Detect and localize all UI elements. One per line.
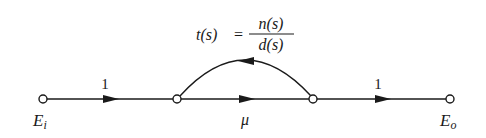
formula-lhs: t(s) <box>196 26 217 44</box>
output-label: Eo <box>439 111 456 132</box>
arrow-right-icon <box>239 95 255 103</box>
arrow-right-icon <box>103 95 119 103</box>
edge-gain-label: 1 <box>101 76 109 92</box>
feedback-formula: t(s) = n(s) d(s) <box>196 15 294 54</box>
feedback-arc <box>180 60 311 96</box>
node-3 <box>309 95 317 103</box>
arrow-right-icon <box>375 95 391 103</box>
edge-gain-label-mu: μ <box>240 111 249 129</box>
arrow-left-icon <box>238 57 254 65</box>
formula-numerator: n(s) <box>259 15 284 33</box>
formula-denominator: d(s) <box>259 36 284 54</box>
node-2 <box>173 95 181 103</box>
input-label: Ei <box>32 111 47 132</box>
node-input <box>39 95 47 103</box>
formula-equals: = <box>234 26 243 43</box>
signal-flow-graph: 1 μ 1 Ei Eo t(s) = n(s) d(s) <box>0 0 486 138</box>
node-output <box>446 95 454 103</box>
edge-gain-label: 1 <box>374 76 382 92</box>
